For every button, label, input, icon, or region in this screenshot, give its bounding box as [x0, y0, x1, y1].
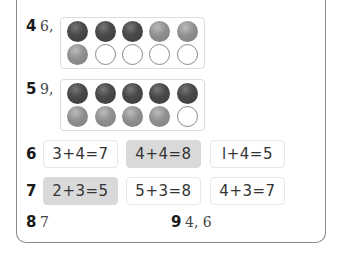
counter-dark-icon [149, 83, 170, 104]
question-number-9: 9 [171, 213, 181, 231]
question-number-8: 8 [26, 213, 36, 231]
counter-empty-icon [177, 106, 198, 127]
ten-frame-5 [60, 79, 205, 131]
equation-option-selected[interactable]: 4+4=8 [126, 140, 201, 168]
counter-dark-icon [95, 21, 116, 42]
counter-mid-icon [67, 44, 88, 65]
equation-option[interactable]: 5+3=8 [126, 177, 201, 205]
counter-empty-icon [149, 44, 170, 65]
counter-mid-icon [95, 106, 116, 127]
equation-option-selected[interactable]: 2+3=5 [43, 177, 118, 205]
counter-mid-icon [177, 21, 198, 42]
counter-mid-icon [149, 106, 170, 127]
counter-dark-icon [67, 21, 88, 42]
counter-dark-icon [95, 83, 116, 104]
counter-dark-icon [122, 21, 143, 42]
counter-dark-icon [177, 83, 198, 104]
counter-empty-icon [95, 44, 116, 65]
counter-dark-icon [122, 83, 143, 104]
equation-option[interactable]: 4+3=7 [210, 177, 285, 205]
counter-mid-icon [122, 106, 143, 127]
question-number-7: 7 [26, 182, 36, 200]
answer-4: 6, [40, 18, 53, 34]
answer-5: 9, [40, 81, 53, 97]
question-number-4: 4 [26, 17, 36, 35]
answer-8: 7 [40, 214, 49, 230]
counter-mid-icon [149, 21, 170, 42]
counter-mid-icon [67, 106, 88, 127]
counter-empty-icon [177, 44, 198, 65]
question-number-6: 6 [26, 145, 36, 163]
question-number-5: 5 [26, 80, 36, 98]
ten-frame-4 [60, 17, 205, 69]
equation-option[interactable]: l+4=5 [210, 140, 285, 168]
counter-dark-icon [67, 83, 88, 104]
counter-empty-icon [122, 44, 143, 65]
equation-option[interactable]: 3+4=7 [43, 140, 118, 168]
answer-9: 4, 6 [185, 214, 212, 230]
